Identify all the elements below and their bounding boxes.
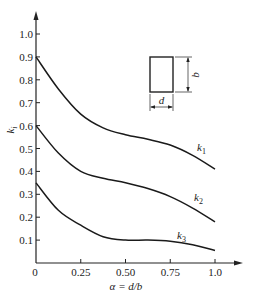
curve-labels: k1k2k3 xyxy=(177,141,206,244)
line-chart: 0.10.20.30.40.50.60.70.80.91.0 00.250.50… xyxy=(0,0,253,299)
x-ticks: 00.250.500.751.0 xyxy=(32,259,222,278)
y-tick-label: 0.4 xyxy=(19,165,33,177)
x-axis-arrow-icon xyxy=(234,261,243,266)
y-tick-label: 0.6 xyxy=(19,120,33,132)
inset-width-label: d xyxy=(159,94,165,106)
y-tick-label: 0.7 xyxy=(19,97,33,109)
y-tick-label: 0.8 xyxy=(19,74,33,86)
x-tick-label: 0.25 xyxy=(71,266,91,278)
x-tick-label: 0.50 xyxy=(116,266,136,278)
y-tick-label: 0.2 xyxy=(19,211,33,223)
y-axis-label: ki xyxy=(4,126,19,133)
axes xyxy=(36,18,236,263)
inset-height-label: b xyxy=(189,72,201,78)
y-tick-label: 0.5 xyxy=(19,143,33,155)
y-axis-arrow-icon xyxy=(34,11,39,20)
y-tick-label: 0.3 xyxy=(19,188,33,200)
curve-k3 xyxy=(36,183,215,251)
curve-label-k2: k2 xyxy=(194,191,203,206)
curve-label-k1: k1 xyxy=(197,141,206,156)
cross-section-inset xyxy=(150,57,192,111)
x-tick-label: 1.0 xyxy=(208,266,222,278)
x-tick-label: 0 xyxy=(32,266,38,278)
y-tick-label: 0.1 xyxy=(19,234,33,246)
curve-k2 xyxy=(36,126,215,222)
y-tick-label: 0.9 xyxy=(19,51,33,63)
cross-section-rect xyxy=(150,57,173,92)
x-axis-label: α = d/b xyxy=(110,280,143,292)
y-ticks: 0.10.20.30.40.50.60.70.80.91.0 xyxy=(19,28,40,246)
y-tick-label: 1.0 xyxy=(19,28,33,40)
x-tick-label: 0.75 xyxy=(161,266,181,278)
